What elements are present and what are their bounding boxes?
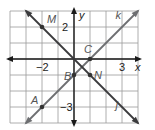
point-label-N: N xyxy=(94,69,102,81)
tick-label: −2 xyxy=(36,61,49,73)
tick-label: −3 xyxy=(60,101,73,113)
point-label-C: C xyxy=(84,43,92,55)
y-axis-arrow-up-icon xyxy=(71,7,77,14)
x-axis-arrow-left-icon xyxy=(6,56,13,62)
point-B xyxy=(72,73,77,78)
point-A xyxy=(40,105,45,110)
tick-label: 3 xyxy=(119,61,125,73)
point-label-B: B xyxy=(64,70,71,82)
x-axis-label: x xyxy=(134,61,141,73)
point-label-A: A xyxy=(30,94,38,106)
point-M xyxy=(40,25,45,30)
line-label-k: k xyxy=(116,9,122,21)
point-label-M: M xyxy=(47,13,57,25)
point-N xyxy=(88,73,93,78)
y-axis-arrow-down-icon xyxy=(71,120,77,127)
tick-label: 2 xyxy=(62,21,68,33)
coordinate-plane: MABCNkj2−3−23xy xyxy=(0,0,155,130)
point-C xyxy=(88,57,93,62)
